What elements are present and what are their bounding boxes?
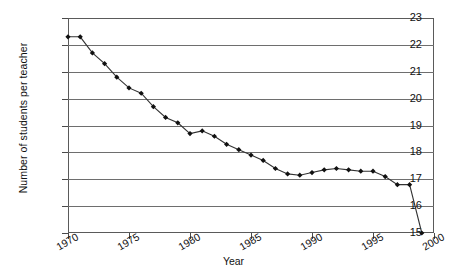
data-point-marker [407,182,412,187]
chart-container: Number of students per teacher 232221201… [0,0,467,275]
x-axis-tick-label: 1995 [359,230,385,252]
y-axis-title: Number of students per teacher [17,23,29,213]
plot-area: 232221201918171615 197019751980198519901… [68,18,434,233]
data-point-marker [200,128,205,133]
x-axis-tick-label: 1985 [237,230,263,252]
data-point-marker [248,152,253,157]
data-point-marker [334,166,339,171]
data-point-marker [309,170,314,175]
data-point-marker [322,167,327,172]
x-axis-tick-label: 1970 [54,230,80,252]
data-point-marker [358,169,363,174]
x-axis-tick-label: 1975 [115,230,141,252]
data-point-marker [297,173,302,178]
data-point-marker [236,147,241,152]
data-point-marker [65,34,70,39]
x-axis-tick-label: 2000 [420,230,446,252]
x-axis-tick-label: 1980 [176,230,202,252]
x-axis-tick-label: 1990 [298,230,324,252]
series-polyline [68,37,422,233]
x-axis-title: Year [0,255,467,267]
data-point-marker [370,169,375,174]
data-point-marker [346,167,351,172]
data-series-line [68,18,434,233]
data-point-marker [285,171,290,176]
